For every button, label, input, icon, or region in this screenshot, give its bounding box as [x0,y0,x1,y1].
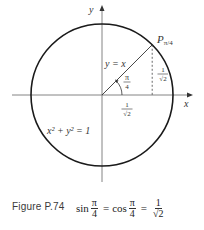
angle-label-num: π [125,73,129,82]
sin-text: sin [76,202,89,214]
fraction-one-over-root-two: 1 √2 [152,198,165,219]
vertical-label-den: √2 [159,75,167,83]
horizontal-label-den: √2 [123,110,131,118]
angle-label-den: 4 [125,83,129,91]
x-axis-arrow-icon [187,93,193,98]
y-axis-label: y [88,4,94,15]
angle-arc [116,81,122,95]
y-axis-arrow-icon [100,5,105,11]
fraction-pi-over-4-a: π 4 [91,198,98,219]
x-axis-label: x [183,98,189,109]
point-label: Pπ/4 [156,33,173,47]
circle-equation: x² + y² = 1 [46,125,90,136]
horizontal-label-num: 1 [125,101,129,109]
line-label: y = x [104,58,126,69]
vertical-label-num: 1 [161,66,165,74]
unit-circle-diagram: y x Pπ/4 y = x π 4 1 √2 1 √2 x² + y² = 1 [0,0,204,195]
caption-formula: sin π 4 = cos π 4 = 1 √2 [76,193,167,223]
equals-sign: = [141,202,147,214]
equals-sign: = [103,202,109,214]
cos-text: cos [112,202,127,214]
fraction-pi-over-4-b: π 4 [129,198,136,219]
figure-caption-label: Figure P.74 [12,201,65,212]
